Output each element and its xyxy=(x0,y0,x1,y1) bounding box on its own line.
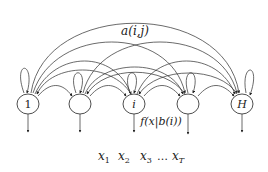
state-node-1: 1 xyxy=(17,94,39,114)
hmm-diagram: 1 i H a(i,j) f(x|b(i)) x1 x2 x3 … xT xyxy=(0,0,268,172)
self-loop-4 xyxy=(186,73,195,93)
state-nodes: 1 i H xyxy=(17,94,253,114)
obs-xT: xT xyxy=(172,149,185,165)
state-node-i: i xyxy=(123,94,145,114)
obs-x2: x2 xyxy=(118,149,130,165)
obs-x1: x1 xyxy=(98,149,110,165)
state-label-H: H xyxy=(236,98,247,111)
emission-arrows xyxy=(28,114,242,134)
arc-2-3 xyxy=(90,86,126,97)
state-node-2 xyxy=(69,94,91,114)
arc-1-2 xyxy=(38,86,72,97)
arc-2-4 xyxy=(85,67,183,94)
self-loop-2 xyxy=(74,73,83,93)
self-loop-H xyxy=(245,70,254,95)
observation-sequence: x1 x2 x3 … xT xyxy=(98,149,185,165)
state-node-H: H xyxy=(231,94,253,114)
obs-ellipsis: … xyxy=(157,150,168,163)
transition-label: a(i,j) xyxy=(121,24,149,38)
arc-H-3 xyxy=(139,73,237,94)
arc-4-H xyxy=(198,86,234,97)
state-node-4 xyxy=(177,94,199,114)
state-label-1: 1 xyxy=(25,98,32,111)
state-label-i: i xyxy=(132,98,136,111)
self-loop-3 xyxy=(128,73,137,93)
self-loop-1 xyxy=(21,68,30,93)
arc-3-4 xyxy=(144,86,180,97)
emission-label: f(x|b(i)) xyxy=(139,115,182,129)
obs-x3: x3 xyxy=(140,149,152,165)
